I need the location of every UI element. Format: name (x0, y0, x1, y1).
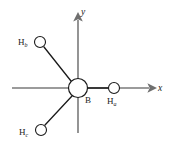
x-axis-label: x (157, 83, 163, 93)
label-hydrogen-b-subscript: b (25, 42, 28, 48)
label-hydrogen-c: Hc (19, 127, 29, 138)
atom-hydrogen-a-circle (109, 83, 120, 94)
axis-labels-group: x y (80, 7, 163, 93)
label-hydrogen-a-subscript: a (114, 101, 117, 107)
molecule-axes-diagram: B Ha Hb Hc x y (0, 0, 171, 155)
label-hydrogen-b: Hb (18, 37, 28, 48)
label-hydrogen-c-subscript: c (26, 132, 29, 138)
label-hydrogen-a: Ha (107, 96, 117, 107)
bond-boron-hydrogen-b (44, 47, 71, 81)
axes-group (12, 20, 149, 133)
atom-hydrogen-b-circle (35, 37, 46, 48)
label-boron: B (85, 95, 91, 105)
y-axis-label: y (80, 7, 86, 17)
figure-root: B Ha Hb Hc x y (0, 0, 171, 155)
atom-hydrogen-c-circle (36, 125, 47, 136)
label-boron-element: B (85, 95, 91, 105)
bond-boron-hydrogen-c (45, 96, 72, 125)
